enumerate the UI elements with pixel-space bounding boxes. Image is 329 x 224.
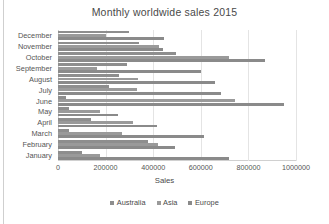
- legend-label-australia: Australia: [117, 198, 146, 207]
- chart-container: Monthly worldwide sales 2015 DecemberNov…: [0, 0, 329, 224]
- legend-label-asia: Asia: [163, 198, 177, 207]
- legend-item-australia[interactable]: Australia: [110, 198, 145, 207]
- bar-europe-february[interactable]: [58, 146, 175, 149]
- x-axis-tick-200000: 200000: [94, 163, 118, 172]
- bar-group: [58, 106, 296, 117]
- bar-europe-may[interactable]: [58, 114, 118, 117]
- x-axis-tick-600000: 600000: [189, 163, 213, 172]
- bar-europe-july[interactable]: [58, 92, 221, 95]
- x-axis-tick-1000000: 1000000: [282, 163, 310, 172]
- bar-europe-january[interactable]: [58, 157, 229, 160]
- bar-group: [58, 30, 296, 41]
- bar-group: [58, 96, 296, 107]
- x-axis-tick-800000: 800000: [236, 163, 260, 172]
- y-axis-label-august: August: [0, 75, 52, 84]
- bar-europe-june[interactable]: [58, 103, 284, 106]
- legend-item-asia[interactable]: Asia: [157, 198, 178, 207]
- x-axis-title: Sales: [0, 176, 329, 185]
- y-axis-labels: DecemberNovemberOctoberSeptemberAugustJu…: [0, 30, 55, 161]
- legend-swatch-australia-icon: [110, 201, 114, 205]
- x-axis-tick-0: 0: [56, 163, 60, 172]
- chart-legend: AustraliaAsiaEurope: [0, 198, 329, 207]
- bar-group: [58, 150, 296, 161]
- chart-title: Monthly worldwide sales 2015: [0, 6, 329, 18]
- bar-europe-september[interactable]: [58, 70, 201, 73]
- bar-europe-december[interactable]: [58, 37, 164, 40]
- bar-group: [58, 139, 296, 150]
- y-axis-label-october: October: [0, 53, 52, 62]
- legend-item-europe[interactable]: Europe: [188, 198, 218, 207]
- y-axis-label-january: January: [0, 151, 52, 160]
- bar-europe-april[interactable]: [58, 125, 157, 128]
- y-axis-label-december: December: [0, 31, 52, 40]
- y-axis-label-september: September: [0, 64, 52, 73]
- bar-group: [58, 52, 296, 63]
- legend-label-europe: Europe: [195, 198, 219, 207]
- bar-europe-march[interactable]: [58, 135, 204, 138]
- bar-europe-november[interactable]: [58, 48, 163, 51]
- y-axis-label-february: February: [0, 140, 52, 149]
- y-axis-label-march: March: [0, 129, 52, 138]
- bar-group: [58, 128, 296, 139]
- bar-europe-august[interactable]: [58, 81, 215, 84]
- y-axis-label-june: June: [0, 97, 52, 106]
- plot-area: [58, 30, 296, 161]
- bar-group: [58, 63, 296, 74]
- legend-swatch-europe-icon: [188, 201, 192, 205]
- legend-swatch-asia-icon: [157, 201, 161, 205]
- bar-group: [58, 85, 296, 96]
- bar-group: [58, 41, 296, 52]
- y-axis-label-november: November: [0, 42, 52, 51]
- y-axis-label-july: July: [0, 86, 52, 95]
- x-axis-labels: 02000004000006000008000001000000: [58, 163, 296, 175]
- bar-group: [58, 117, 296, 128]
- bar-group: [58, 74, 296, 85]
- y-axis-label-april: April: [0, 118, 52, 127]
- y-axis-label-may: May: [0, 107, 52, 116]
- bar-europe-october[interactable]: [58, 59, 265, 62]
- gridline: [296, 30, 297, 161]
- x-axis-tick-400000: 400000: [141, 163, 165, 172]
